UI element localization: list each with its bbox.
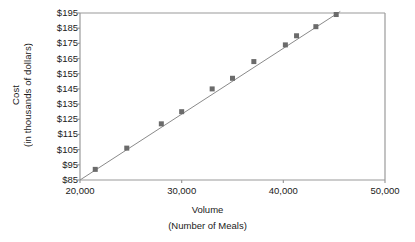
data-point-marker: [313, 24, 318, 29]
x-axis-tick-label: 20,000: [65, 186, 94, 196]
data-point-marker: [179, 109, 184, 114]
data-point-marker: [124, 146, 129, 151]
data-point-marker: [283, 42, 288, 47]
data-point-marker: [93, 167, 98, 172]
x-axis-tick-label: 30,000: [167, 186, 196, 196]
x-axis-subtitle: (Number of Meals): [0, 219, 415, 233]
data-point-marker: [334, 12, 339, 17]
x-axis-tick-label: 50,000: [370, 186, 399, 196]
cost-volume-scatter-chart: Cost (in thousands of dollars) $85$95$10…: [0, 0, 415, 242]
x-axis-title: Volume: [0, 203, 415, 217]
data-point-marker: [230, 76, 235, 81]
regression-line: [80, 11, 340, 180]
data-point-marker: [159, 121, 164, 126]
data-point-marker: [294, 33, 299, 38]
data-point-marker: [251, 59, 256, 64]
x-axis-tick-label: 40,000: [269, 186, 298, 196]
data-point-marker: [210, 86, 215, 91]
